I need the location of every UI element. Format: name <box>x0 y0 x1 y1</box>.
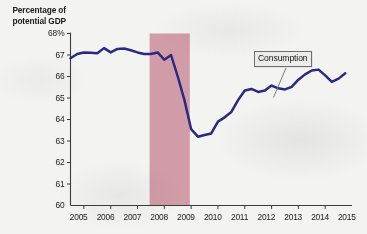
recession-shading-band <box>150 34 190 206</box>
x-axis-tick-label: 2010 <box>198 212 228 222</box>
y-axis-tick-label: 66 <box>35 71 65 81</box>
chart-container: Percentage of potential GDP Consumption … <box>0 0 367 234</box>
annotation-leader-line <box>274 68 287 98</box>
y-axis-tick-label: 65 <box>35 93 65 103</box>
x-axis-tick-label: 2007 <box>117 212 147 222</box>
y-axis-tick-label: 63 <box>35 136 65 146</box>
x-axis-tick-label: 2013 <box>278 212 308 222</box>
x-axis-tick-label: 2012 <box>251 212 281 222</box>
y-axis-tick-label: 60 <box>35 200 65 210</box>
y-axis-tick-label: 62 <box>35 157 65 167</box>
x-axis-tick-label: 2008 <box>144 212 174 222</box>
series-annotation-label: Consumption <box>258 53 308 63</box>
y-axis-tick-label: 64 <box>35 114 65 124</box>
series-annotation-consumption: Consumption <box>254 51 312 67</box>
x-axis-tick-label: 2011 <box>225 212 255 222</box>
x-axis-tick-label: 2009 <box>171 212 201 222</box>
x-axis-tick-label: 2005 <box>64 212 94 222</box>
x-axis-tick-label: 2006 <box>91 212 121 222</box>
x-axis-tick-label: 2015 <box>332 212 362 222</box>
y-axis-tick-label: 68% <box>35 28 65 38</box>
x-axis-tick-label: 2014 <box>305 212 335 222</box>
y-axis-tick-label: 67 <box>35 50 65 60</box>
y-axis-tick-label: 61 <box>35 179 65 189</box>
